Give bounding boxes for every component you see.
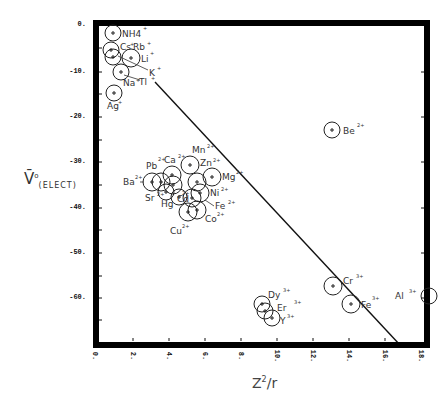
svg-text:3+: 3+ bbox=[287, 313, 294, 319]
svg-text:3+: 3+ bbox=[283, 287, 290, 293]
svg-text:+: + bbox=[150, 50, 154, 56]
label-zn: Zn bbox=[200, 158, 212, 168]
x-tick-marks bbox=[133, 338, 385, 341]
label-hg: Hg bbox=[161, 199, 173, 209]
svg-text:2+: 2+ bbox=[207, 143, 214, 149]
label-tl: Tl bbox=[138, 77, 147, 87]
svg-text:2+: 2+ bbox=[182, 190, 189, 196]
svg-text:3+: 3+ bbox=[372, 295, 379, 301]
svg-text:+: + bbox=[157, 65, 161, 71]
svg-text:2+: 2+ bbox=[158, 156, 165, 162]
svg-text:2+: 2+ bbox=[236, 169, 243, 175]
svg-text:3+: 3+ bbox=[409, 288, 416, 294]
label-er: Er bbox=[277, 303, 287, 313]
y-tick-marks bbox=[99, 48, 424, 320]
svg-text:+: + bbox=[151, 75, 155, 81]
svg-text:2+: 2+ bbox=[213, 157, 220, 163]
label-na: Na bbox=[123, 78, 135, 88]
label-fe3: Fe bbox=[361, 300, 372, 310]
label-dy: Dy bbox=[268, 290, 281, 300]
label-ca: Ca bbox=[164, 155, 176, 165]
label-co: Co bbox=[205, 214, 217, 224]
ion-labels: NH4 + Cs + Rb + Li + K + Na + Tl + Ag + … bbox=[107, 25, 416, 326]
label-sr: Sr bbox=[145, 193, 155, 203]
svg-text:2+: 2+ bbox=[182, 223, 189, 229]
svg-text:+: + bbox=[118, 99, 122, 105]
label-cr: Cr bbox=[343, 276, 353, 286]
svg-text:+: + bbox=[143, 25, 147, 31]
svg-text:2+: 2+ bbox=[157, 191, 164, 197]
svg-text:+: + bbox=[147, 40, 151, 46]
label-be: Be bbox=[343, 126, 355, 136]
svg-text:2+: 2+ bbox=[228, 199, 235, 205]
svg-text:2+: 2+ bbox=[221, 186, 228, 192]
label-y: Y bbox=[279, 316, 286, 326]
label-nh4: NH4 bbox=[122, 29, 142, 39]
label-ni: Ni bbox=[210, 188, 219, 198]
label-cu: Cu bbox=[170, 226, 182, 236]
label-mg: Mg bbox=[222, 172, 235, 182]
label-ba: Ba bbox=[123, 177, 135, 187]
label-rb: Rb bbox=[133, 42, 145, 52]
svg-text:3+: 3+ bbox=[356, 273, 363, 279]
label-fe2: Fe bbox=[215, 201, 226, 211]
label-al: Al bbox=[395, 291, 404, 301]
svg-text:2+: 2+ bbox=[178, 153, 185, 159]
svg-text:3+: 3+ bbox=[294, 299, 301, 305]
svg-text:2+: 2+ bbox=[135, 174, 142, 180]
svg-text:2+: 2+ bbox=[357, 122, 364, 128]
label-li: Li bbox=[141, 54, 149, 64]
label-pb: Pb bbox=[146, 161, 157, 171]
label-mn: Mn bbox=[192, 145, 205, 155]
plot-area: NH4 + Cs + Rb + Li + K + Na + Tl + Ag + … bbox=[0, 0, 446, 413]
svg-text:2+: 2+ bbox=[217, 211, 224, 217]
